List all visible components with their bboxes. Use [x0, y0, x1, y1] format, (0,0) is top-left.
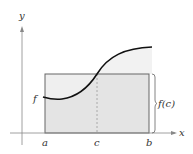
x-axis-arrow-icon [171, 131, 177, 135]
height-brace [152, 74, 157, 133]
a-label: a [42, 137, 48, 148]
figure: y x f a c b f(c) [0, 0, 193, 154]
function-label: f [32, 93, 39, 104]
y-axis-label: y [18, 10, 25, 21]
y-axis-arrow-icon [20, 26, 24, 32]
fc-label: f(c) [157, 98, 175, 109]
x-axis-label: x [179, 127, 185, 138]
b-label: b [146, 137, 152, 148]
c-label: c [94, 137, 100, 148]
